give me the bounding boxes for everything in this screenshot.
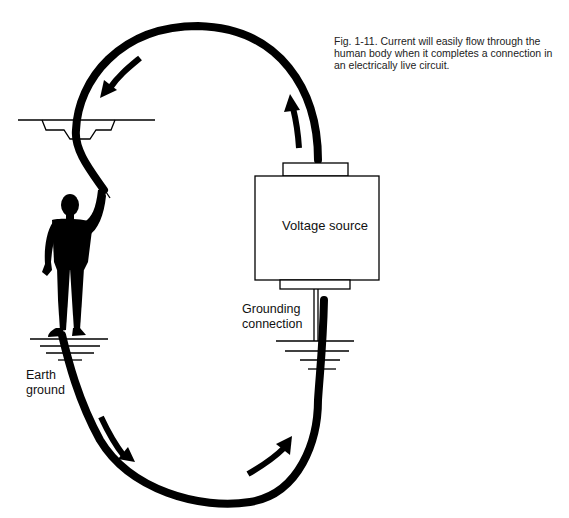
earth-label-line1: Earth	[26, 368, 86, 383]
grounding-label-line1: Grounding	[242, 302, 332, 317]
ground-symbol-icon	[276, 341, 354, 369]
earth-label-line2: ground	[26, 383, 86, 398]
earth-ground-label: Earth ground	[26, 368, 86, 398]
grounding-connection-label: Grounding connection	[242, 302, 332, 332]
voltage-source-label: Voltage source	[260, 218, 390, 233]
overhead-line	[18, 120, 155, 139]
figure-caption: Fig. 1-11. Current will easily flow thro…	[334, 35, 564, 71]
circuit-diagram	[0, 0, 569, 518]
grounding-label-line2: connection	[242, 317, 332, 332]
human-silhouette-icon	[42, 188, 106, 337]
